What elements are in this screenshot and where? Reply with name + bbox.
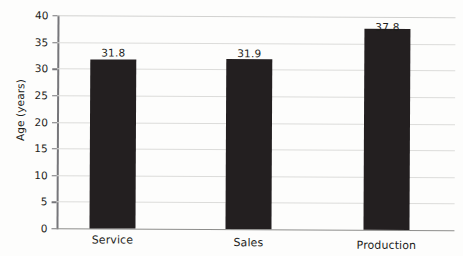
y-tick-label-20: 20 (2, 115, 48, 127)
gridline-40 (58, 15, 456, 18)
y-tick-label-25: 25 (2, 89, 48, 101)
bar-production (363, 28, 410, 230)
bar-value-service: 31.8 (101, 46, 125, 58)
bar-chart: Age (years) 0 5 10 15 20 25 30 35 40 (0, 0, 463, 256)
y-tick-label-30: 30 (2, 62, 48, 74)
bar-service (89, 59, 136, 229)
category-label-sales: Sales (233, 236, 263, 249)
y-tick-label-40: 40 (2, 9, 48, 21)
chart-canvas: Age (years) 0 5 10 15 20 25 30 35 40 (0, 0, 463, 256)
bar-sales (225, 59, 272, 229)
y-tick-label-15: 15 (2, 142, 48, 154)
y-tick-label-0: 0 (1, 222, 47, 234)
y-tick-label-35: 35 (2, 36, 48, 48)
bar-value-sales: 31.9 (237, 47, 261, 59)
category-label-service: Service (92, 233, 133, 246)
y-tick-label-10: 10 (2, 169, 48, 181)
bar-value-production: 37.8 (375, 21, 399, 33)
category-label-production: Production (357, 239, 417, 252)
y-tick-label-5: 5 (2, 195, 48, 207)
y-axis-tick-labels: 0 5 10 15 20 25 30 35 40 (0, 0, 49, 256)
